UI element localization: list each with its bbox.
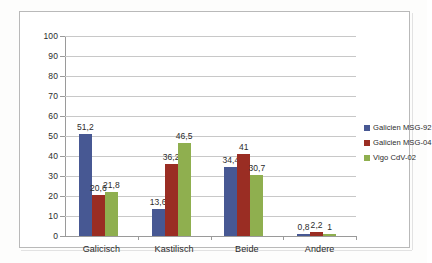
gridline	[65, 56, 356, 57]
y-axis-tick-label: 30	[24, 172, 58, 181]
bar-value-label: 30,7	[243, 164, 270, 173]
y-axis-tick-label: 100	[24, 32, 58, 41]
chart-frame: 1009080706050403020100 51,220,621,813,63…	[19, 11, 410, 248]
gridline	[65, 116, 356, 117]
bar-value-label: 51,2	[72, 123, 99, 132]
y-axis-tick-label: 50	[24, 132, 58, 141]
x-axis-tick-mark	[356, 236, 357, 240]
bar	[165, 164, 178, 236]
bar	[250, 175, 263, 236]
y-axis-tick-label: 20	[24, 192, 58, 201]
y-axis-labels: 1009080706050403020100	[20, 12, 58, 249]
bar	[323, 234, 336, 236]
bar	[178, 143, 191, 236]
y-axis-tick-mark	[60, 136, 65, 137]
legend-color-swatch	[364, 125, 370, 131]
y-axis-tick-label: 80	[24, 72, 58, 81]
legend-label: Vigo CdV-02	[373, 153, 416, 162]
x-axis-category-label: Beide	[211, 244, 284, 254]
bar-value-label: 1	[316, 223, 343, 232]
legend-color-swatch	[364, 140, 370, 146]
legend-item: Galicien MSG-92	[364, 120, 426, 135]
gridline	[65, 76, 356, 77]
x-axis-tick-mark	[283, 236, 284, 240]
x-axis-category-label: Kastilisch	[138, 244, 211, 254]
bar	[297, 234, 310, 236]
bar	[310, 232, 323, 236]
x-axis-category-label: Galicisch	[65, 244, 138, 254]
plot-area: 51,220,621,813,636,246,534,44130,70,82,2…	[65, 36, 356, 236]
y-axis-tick-mark	[60, 216, 65, 217]
x-axis-tick-mark	[138, 236, 139, 240]
y-axis-tick-label: 60	[24, 112, 58, 121]
bar-value-label: 46,5	[171, 132, 198, 141]
y-axis-tick-mark	[60, 76, 65, 77]
y-axis-tick-mark	[60, 156, 65, 157]
x-axis-tick-mark	[211, 236, 212, 240]
bar	[92, 195, 105, 236]
y-axis-tick-label: 10	[24, 212, 58, 221]
y-axis-tick-label: 0	[24, 232, 58, 241]
chart-legend: Galicien MSG-92Galicien MSG-04Vigo CdV-0…	[364, 120, 426, 165]
y-axis-tick-mark	[60, 236, 65, 237]
bar	[224, 167, 237, 236]
gridline	[65, 136, 356, 137]
y-axis-tick-mark	[60, 96, 65, 97]
y-axis-tick-label: 40	[24, 152, 58, 161]
y-axis-tick-mark	[60, 36, 65, 37]
legend-label: Galicien MSG-04	[373, 138, 432, 147]
gridline	[65, 36, 356, 37]
bar	[152, 209, 165, 236]
y-axis-tick-mark	[60, 196, 65, 197]
bar-value-label: 41	[230, 143, 257, 152]
bar	[105, 192, 118, 236]
bar-value-label: 21,8	[98, 181, 125, 190]
gridline	[65, 156, 356, 157]
y-axis-tick-mark	[60, 56, 65, 57]
gridline	[65, 96, 356, 97]
y-axis-tick-mark	[60, 176, 65, 177]
y-axis-tick-label: 90	[24, 52, 58, 61]
legend-label: Galicien MSG-92	[373, 123, 432, 132]
gridline	[65, 176, 356, 177]
y-axis-tick-label: 70	[24, 92, 58, 101]
legend-item: Galicien MSG-04	[364, 135, 426, 150]
legend-color-swatch	[364, 155, 370, 161]
legend-item: Vigo CdV-02	[364, 150, 426, 165]
x-axis-category-label: Andere	[283, 244, 356, 254]
y-axis-tick-mark	[60, 116, 65, 117]
